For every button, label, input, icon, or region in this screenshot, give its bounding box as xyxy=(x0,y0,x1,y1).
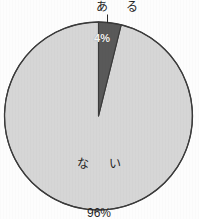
pie-label-group-nai: な い 96% xyxy=(59,124,139,219)
pie-value-nai: 96% xyxy=(59,207,139,219)
pie-label-nai: な い xyxy=(59,158,139,171)
pie-value-aru: 4% xyxy=(87,33,117,45)
pie-label-aru: あ る xyxy=(96,1,170,14)
pie-chart-figure: あ る 4% な い 96% xyxy=(0,0,199,219)
